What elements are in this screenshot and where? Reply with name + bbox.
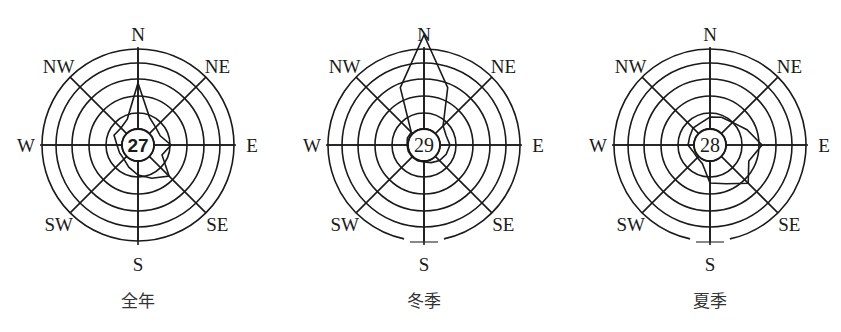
- spoke: [721, 77, 778, 134]
- spoke: [149, 77, 206, 134]
- direction-label-sw: SW: [44, 214, 73, 235]
- direction-label-se: SE: [206, 214, 228, 235]
- spoke: [70, 77, 127, 134]
- direction-label-n: N: [417, 24, 431, 45]
- direction-label-nw: NW: [43, 56, 75, 77]
- spoke: [70, 156, 127, 213]
- direction-label-ne: NE: [777, 56, 802, 77]
- direction-label-e: E: [818, 135, 830, 156]
- chart-title-annual: 全年: [78, 287, 198, 312]
- calm-value: 28: [700, 134, 720, 156]
- wind-rose-figure: 27NNEESESSWWNW29NNEESESSWWNW28NNEESESSWW…: [0, 0, 841, 332]
- direction-label-w: W: [303, 135, 321, 156]
- direction-label-se: SE: [778, 214, 800, 235]
- direction-label-e: E: [532, 135, 544, 156]
- spoke: [356, 156, 413, 213]
- spoke: [435, 156, 492, 213]
- direction-label-s: S: [419, 254, 430, 275]
- wind-rose-annual: 27NNEESESSWWNW: [17, 24, 258, 275]
- direction-label-ne: NE: [205, 56, 230, 77]
- direction-label-nw: NW: [329, 56, 361, 77]
- direction-label-ne: NE: [491, 56, 516, 77]
- direction-label-w: W: [589, 135, 607, 156]
- spoke: [149, 156, 206, 213]
- spoke: [721, 156, 778, 213]
- direction-label-e: E: [246, 135, 258, 156]
- calm-value: 29: [414, 134, 434, 156]
- calm-value: 27: [127, 135, 148, 156]
- direction-label-nw: NW: [615, 56, 647, 77]
- chart-title-summer: 夏季: [650, 287, 770, 312]
- direction-label-s: S: [133, 254, 144, 275]
- direction-label-w: W: [17, 135, 35, 156]
- direction-label-sw: SW: [330, 214, 359, 235]
- wind-rose-winter: 29NNEESESSWWNW: [303, 24, 544, 275]
- spoke: [642, 156, 699, 213]
- chart-title-winter: 冬季: [364, 287, 484, 312]
- direction-label-s: S: [705, 254, 716, 275]
- spoke: [642, 77, 699, 134]
- direction-label-sw: SW: [616, 214, 645, 235]
- direction-label-se: SE: [492, 214, 514, 235]
- direction-label-n: N: [131, 24, 145, 45]
- wind-rose-summer: 28NNEESESSWWNW: [589, 24, 830, 275]
- direction-label-n: N: [703, 24, 717, 45]
